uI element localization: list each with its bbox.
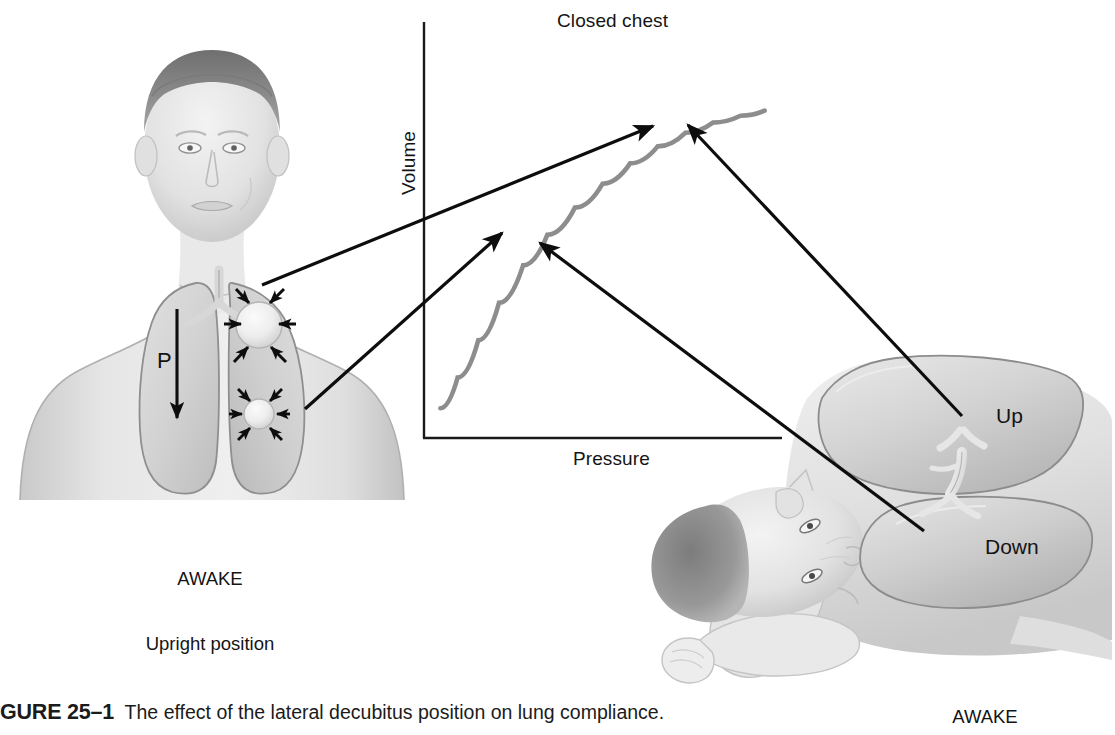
y-axis-label: Volume [398,131,420,195]
lung-up-shape [819,356,1084,494]
figure-caption-body: The effect of the lateral decubitus posi… [125,701,664,723]
left-pupil [187,145,193,151]
figure-root: Closed chest Volume Pressure P Up Down A… [0,0,1115,735]
right-ear [267,136,289,176]
chart-title: Closed chest [557,10,668,32]
figure-caption-text [114,701,124,723]
pressure-label: P [157,348,172,374]
upright-caption: AWAKE Upright position [110,524,310,699]
up-lung-label: Up [996,404,1023,429]
lateral-ear [776,489,803,518]
figure-caption-number: GURE 25–1 [0,700,114,724]
x-axis-label: Pressure [573,448,650,470]
right-pupil [231,145,237,151]
figure-caption: GURE 25–1 The effect of the lateral decu… [0,700,1000,725]
lateral-pupil-lower [809,573,815,579]
alveolus-upper [236,302,282,348]
alveolus-lower [244,399,274,429]
upright-caption-line2: Upright position [110,633,310,655]
lateral-pupil-upper [807,523,813,529]
upright-caption-line1: AWAKE [110,568,310,590]
down-lung-label: Down [985,535,1039,560]
left-ear [135,136,157,176]
mouth [192,202,232,211]
